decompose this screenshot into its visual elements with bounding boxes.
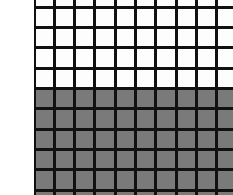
grid-line-vertical bbox=[134, 0, 137, 195]
grid-canvas bbox=[0, 0, 233, 195]
grid-line-vertical bbox=[215, 0, 218, 195]
grid-line-vertical bbox=[154, 0, 157, 195]
grid-line-vertical bbox=[175, 0, 178, 195]
grid-line-vertical bbox=[53, 0, 56, 195]
grid-line-vertical bbox=[195, 0, 198, 195]
grid-line-vertical bbox=[73, 0, 76, 195]
left-margin-strip bbox=[0, 0, 34, 195]
grid-plane bbox=[34, 0, 233, 195]
grid-line-vertical bbox=[93, 0, 96, 195]
grid-line-vertical bbox=[114, 0, 117, 195]
